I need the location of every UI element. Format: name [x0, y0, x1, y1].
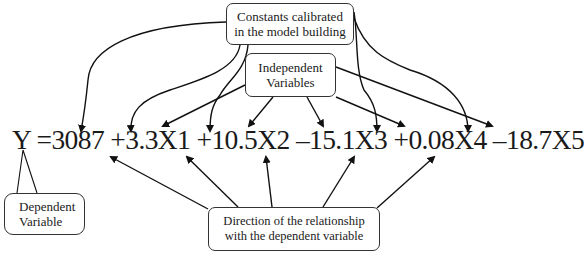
arrow-direction-to-x4-sign — [323, 157, 354, 207]
eq-var-2: X2 — [257, 124, 289, 155]
independent-label-line2: Variables — [246, 75, 335, 90]
eq-sign-5: – — [493, 124, 506, 155]
eq-var-4: X4 — [454, 124, 486, 155]
eq-var-3: X3 — [355, 124, 387, 155]
eq-equals: = — [37, 124, 52, 155]
dependent-label-line1: Dependent — [19, 199, 75, 214]
arrow-direction-to-x3-sign — [266, 157, 272, 207]
direction-relationship-box: Direction of the relationship with the d… — [208, 207, 380, 251]
arrow-constants-to-intercept — [81, 22, 226, 131]
arrow-direction-to-x5-sign — [377, 157, 434, 208]
arrow-indep-to-x2 — [249, 97, 273, 126]
regression-equation: Y =3087 +3.3X1 +10.5X2 –15.1X3 +0.08X4 –… — [12, 124, 584, 156]
eq-lhs: Y — [12, 124, 30, 155]
arrow-indep-to-x4 — [336, 97, 404, 126]
constants-label-line1: Constants calibrated — [227, 9, 353, 24]
arrow-constants-to-x5-coef — [354, 18, 468, 131]
arrow-direction-to-x2-sign — [187, 157, 238, 207]
eq-var-5: X5 — [552, 124, 584, 155]
dependent-label-line2: Variable — [19, 214, 62, 229]
callout-pointer-dependent — [17, 150, 37, 193]
eq-sign-4: + — [394, 124, 409, 155]
eq-coef-2: 10.5 — [211, 124, 257, 155]
dependent-variable-callout: Dependent Variable — [4, 193, 85, 235]
eq-var-1: X1 — [158, 124, 190, 155]
eq-coef-3: 15.1 — [309, 124, 355, 155]
eq-sign-3: – — [296, 124, 309, 155]
eq-sign-1: + — [110, 124, 125, 155]
arrow-indep-to-x3 — [307, 97, 323, 126]
eq-sign-2: + — [197, 124, 212, 155]
constants-label-box: Constants calibrated in the model buildi… — [226, 3, 354, 45]
direction-label-line1: Direction of the relationship — [209, 214, 379, 229]
direction-label-line2: with the dependent variable — [209, 229, 379, 244]
eq-coef-5: 18.7 — [506, 124, 552, 155]
constants-label-line2: in the model building — [227, 24, 353, 39]
arrow-indep-to-x5 — [336, 67, 492, 126]
arrow-indep-to-x1 — [163, 85, 245, 126]
eq-coef-1: 3.3 — [125, 124, 158, 155]
arrow-constants-to-x2-coef — [210, 45, 248, 131]
independent-variables-box: Independent Variables — [245, 53, 336, 97]
eq-coef-4: 0.08 — [408, 124, 454, 155]
arrow-constants-to-x1-coef — [131, 45, 240, 131]
arrow-direction-to-x1-sign — [111, 157, 208, 209]
eq-intercept: 3087 — [51, 124, 104, 155]
independent-label-line1: Independent — [246, 60, 335, 75]
